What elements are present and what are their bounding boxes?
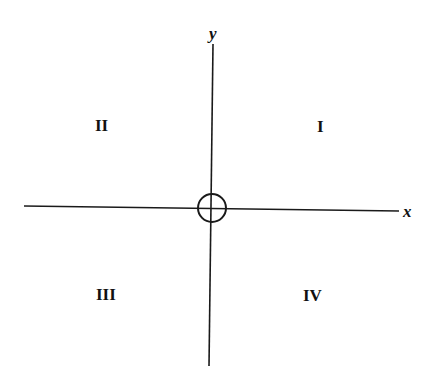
- coordinate-plane-diagram: y x I II III IV: [0, 0, 432, 388]
- y-axis-label: y: [207, 24, 217, 43]
- x-axis-label: x: [402, 202, 412, 221]
- quadrant-label-iv: IV: [303, 286, 323, 305]
- quadrant-label-iii: III: [96, 285, 116, 304]
- y-axis: [209, 44, 213, 366]
- quadrant-label-ii: II: [95, 116, 109, 135]
- quadrant-label-i: I: [317, 117, 324, 136]
